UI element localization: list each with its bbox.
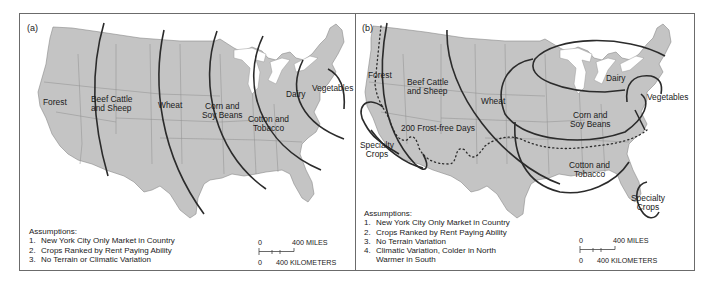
panel-label: (b) <box>362 23 373 33</box>
scale-miles-label: 400 MILES <box>292 238 328 247</box>
assumptions-list: Assumptions: 1.New York City Only Market… <box>364 209 510 265</box>
region-label-forest: Forest <box>368 71 392 80</box>
region-label-beef-cattle-and-sheep: Beef Cattleand Sheep <box>91 95 132 113</box>
scale-km-label: 400 KILOMETERS <box>597 256 657 265</box>
region-label-dairy: Dairy <box>606 74 626 83</box>
scale-bar: 0 400 MILES 0 400 KILOMETERS <box>579 236 679 276</box>
figure-frame: (a) Forest Beef Cattleand Sheep Wheat Co… <box>19 13 695 271</box>
region-label-forest: Forest <box>43 98 67 107</box>
assumption-item: 3.No Terrain or Climatic Variation <box>29 255 175 264</box>
region-label-vegetables: Vegetables <box>647 93 688 102</box>
region-label-wheat: Wheat <box>158 101 182 110</box>
scale-ruler-icon <box>579 245 619 255</box>
assumption-item: 3.No Terrain Variation <box>364 237 510 246</box>
region-label-cotton-and-tobacco: Cotton andTobacco <box>569 161 610 179</box>
assumption-item: 2.Crops Ranked by Rent Paying Ability <box>29 246 175 255</box>
region-label-beef-cattle-and-sheep: Beef Cattleand Sheep <box>407 78 448 96</box>
region-label-specialty-crops-west: SpecialtyCrops <box>360 141 394 159</box>
scale-km-label: 400 KILOMETERS <box>276 258 336 267</box>
region-label-corn-and-soy-beans: Corn andSoy Beans <box>202 102 243 120</box>
assumption-item: 2.Crops Ranked by Rent Paying Ability <box>364 228 510 237</box>
scale-bar: 0 400 MILES 0 400 KILOMETERS <box>258 238 358 278</box>
scale-miles-zero: 0 <box>579 236 583 245</box>
region-label-wheat: Wheat <box>481 97 505 106</box>
panel-a: (a) Forest Beef Cattleand Sheep Wheat Co… <box>20 14 356 270</box>
scale-km-zero: 0 <box>579 256 583 265</box>
scale-km-zero: 0 <box>258 258 262 267</box>
assumptions-title: Assumptions: <box>29 227 175 236</box>
assumptions-list: Assumptions: 1.New York City Only Market… <box>29 227 175 264</box>
scale-ruler-icon <box>258 247 298 257</box>
assumption-item: 1.New York City Only Market in Country <box>29 236 175 245</box>
region-label-corn-and-soy-beans: Corn andSoy Beans <box>570 111 611 129</box>
region-label-vegetables: Vegetables <box>312 84 353 93</box>
assumption-item: 1.New York City Only Market in Country <box>364 218 510 227</box>
region-label-cotton-and-tobacco: Cotton andTobacco <box>248 115 289 133</box>
panel-label: (a) <box>27 23 38 33</box>
region-label-frost-free-days: 200 Frost-free Days <box>401 124 475 133</box>
assumptions-title: Assumptions: <box>364 209 510 218</box>
scale-miles-zero: 0 <box>258 238 262 247</box>
panel-b: (b) Forest Beef Cattleand Sheep Wheat 20… <box>355 14 694 270</box>
region-label-dairy: Dairy <box>286 90 306 99</box>
assumption-item: 4.Climatic Variation, Colder in NorthWar… <box>364 246 510 265</box>
scale-miles-label: 400 MILES <box>613 236 649 245</box>
region-label-specialty-crops-florida: SpecialtyCrops <box>631 194 665 212</box>
